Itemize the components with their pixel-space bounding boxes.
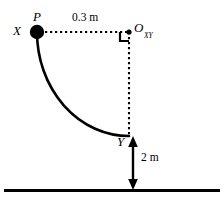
- height-arrowhead-down: [128, 179, 138, 190]
- label-pivot-o: OXY: [134, 21, 152, 37]
- height-arrowhead-up: [128, 136, 138, 147]
- label-bob-p: P: [33, 10, 41, 23]
- diagram-canvas: [0, 0, 224, 207]
- label-horizontal-distance: 0.3 m: [72, 12, 98, 24]
- physics-diagram: P X OXY Y 0.3 m 2 m: [0, 0, 224, 207]
- pivot-point-dot: [126, 29, 131, 34]
- label-point-x: X: [13, 24, 21, 37]
- label-vertical-distance: 2 m: [141, 152, 159, 164]
- pivot-subscript: XY: [144, 31, 153, 40]
- pendulum-bob: [30, 25, 44, 39]
- label-point-y: Y: [117, 135, 124, 148]
- pivot-letter: O: [134, 20, 143, 35]
- pendulum-swing-arc: [37, 32, 129, 136]
